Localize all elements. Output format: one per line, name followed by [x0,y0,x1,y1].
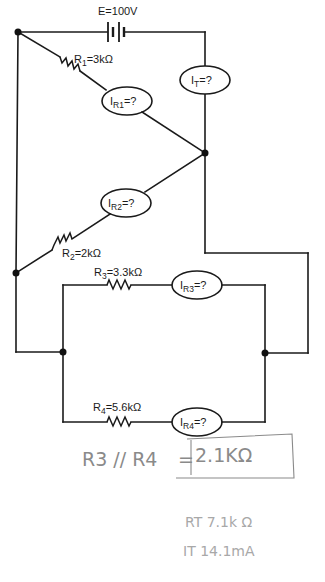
wire-r2-c [16,250,52,273]
circuit-diagram: E=100V IT=? IR1=? R1=3kΩ IR2=? R2=2kΩ IR… [0,0,325,582]
wire-r1-a [18,32,60,57]
meter-it: IT=? [180,66,230,94]
resistor-r2-label: R2=2kΩ [62,247,101,262]
node-right-mid [202,150,209,157]
note-parallel-label: R3 // R4 [82,448,157,470]
resistor-r4-label: R4=5.6kΩ [93,401,141,416]
note-rt: RT 7.1k Ω [185,514,253,530]
wire-r2-b [72,214,110,239]
resistor-r1-label: R1=3kΩ [74,53,113,68]
meter-ir1: IR1=? [102,87,152,115]
note-parallel-result: 2.1KΩ [195,444,252,466]
battery-icon [108,22,124,42]
note-it: IT 14.1mA [183,543,255,559]
meter-ir4: IR4=? [172,408,222,436]
resistor-r4-icon [107,417,131,426]
node-left-mid [13,270,20,277]
node-parallel-left [60,349,67,356]
wire-r2-a [145,153,205,192]
source-label: E=100V [98,5,138,17]
node-top-left [15,29,22,36]
resistor-r3-label: R3=3.3kΩ [94,266,142,281]
meter-ir2: IR2=? [101,189,151,217]
wire-r1-c [142,112,205,153]
wire-r1-b [80,71,106,90]
wire-left-upper [16,32,18,273]
meter-ir3: IR3=? [172,271,222,299]
resistor-r3-icon [107,280,131,289]
node-parallel-right [262,350,269,357]
